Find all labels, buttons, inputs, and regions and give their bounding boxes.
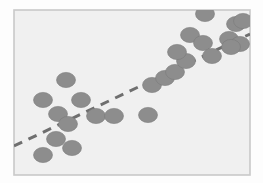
data-point xyxy=(34,92,53,107)
data-point xyxy=(57,72,76,87)
data-point xyxy=(63,140,82,155)
data-point xyxy=(139,107,158,122)
scatter-plot-canvas xyxy=(0,0,263,183)
data-point xyxy=(234,13,253,28)
data-point xyxy=(203,48,222,63)
data-point xyxy=(168,44,187,59)
data-point xyxy=(222,39,241,54)
data-point xyxy=(34,147,53,162)
scatter-plot-figure xyxy=(0,0,263,183)
data-point xyxy=(72,92,91,107)
data-point xyxy=(87,108,106,123)
data-point xyxy=(105,108,124,123)
data-point xyxy=(59,116,78,131)
data-point xyxy=(47,131,66,146)
